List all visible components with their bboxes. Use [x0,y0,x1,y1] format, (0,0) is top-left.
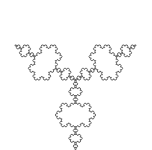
koch-snowflake-canvas [0,0,152,150]
koch-snowflake-outline [15,45,136,150]
